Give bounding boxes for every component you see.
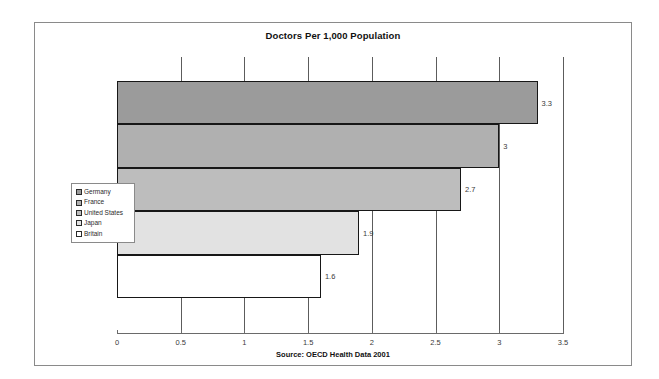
legend-item-label: United States xyxy=(84,210,123,217)
x-axis-tick-label: 2.5 xyxy=(430,338,440,347)
x-axis-tick-label: 2 xyxy=(370,338,374,347)
legend-swatch-icon xyxy=(76,231,82,237)
legend-swatch-icon xyxy=(76,189,82,195)
bar-row: 3 xyxy=(117,124,563,167)
legend-item[interactable]: Britain xyxy=(76,229,131,239)
bar[interactable] xyxy=(117,211,359,254)
bar[interactable] xyxy=(117,124,499,167)
x-axis-tick xyxy=(563,330,564,334)
x-axis-tick-label: 3 xyxy=(497,338,501,347)
legend-swatch-icon xyxy=(76,220,82,226)
legend-swatch-icon xyxy=(76,200,82,206)
legend-item[interactable]: United States xyxy=(76,208,131,218)
legend-item-label: Japan xyxy=(84,220,102,227)
legend-item[interactable]: Germany xyxy=(76,187,131,197)
x-axis-tick xyxy=(372,330,373,334)
bar-row: 2.7 xyxy=(117,168,563,211)
bar-value-label: 1.6 xyxy=(321,272,335,281)
legend-item[interactable]: Japan xyxy=(76,218,131,228)
bar-value-label: 3.3 xyxy=(538,98,552,107)
x-axis-tick xyxy=(308,330,309,334)
chart-legend: GermanyFranceUnited StatesJapanBritain xyxy=(71,183,135,243)
bar[interactable] xyxy=(117,168,461,211)
legend-swatch-icon xyxy=(76,210,82,216)
x-axis-tick-label: 3.5 xyxy=(558,338,568,347)
bar-row: 1.6 xyxy=(117,255,563,298)
legend-item-label: France xyxy=(84,199,104,206)
bar-row: 3.3 xyxy=(117,81,563,124)
plot-area: 3.332.71.91.6 xyxy=(117,57,563,333)
bar-row: 1.9 xyxy=(117,211,563,254)
chart-title: Doctors Per 1,000 Population xyxy=(35,30,631,41)
legend-item[interactable]: France xyxy=(76,197,131,207)
chart-frame: Doctors Per 1,000 Population 3.332.71.91… xyxy=(34,22,632,366)
x-axis-tick xyxy=(117,330,118,334)
x-axis-tick xyxy=(436,330,437,334)
x-axis-tick xyxy=(244,330,245,334)
source-note: Source: OECD Health Data 2001 xyxy=(35,350,631,359)
bar[interactable] xyxy=(117,255,321,298)
x-axis-tick-label: 0 xyxy=(115,338,119,347)
x-axis-tick-label: 1 xyxy=(242,338,246,347)
legend-item-label: Britain xyxy=(84,231,102,238)
gridline xyxy=(563,57,564,333)
x-axis-tick xyxy=(181,330,182,334)
bar-value-label: 3 xyxy=(499,142,507,151)
x-axis-tick-label: 0.5 xyxy=(175,338,185,347)
bar[interactable] xyxy=(117,81,538,124)
x-axis-line xyxy=(117,333,563,334)
x-axis-tick xyxy=(499,330,500,334)
legend-item-label: Germany xyxy=(84,189,111,196)
bar-value-label: 1.9 xyxy=(359,228,373,237)
bar-value-label: 2.7 xyxy=(461,185,475,194)
x-axis-tick-label: 1.5 xyxy=(303,338,313,347)
bar-series: 3.332.71.91.6 xyxy=(117,81,563,298)
